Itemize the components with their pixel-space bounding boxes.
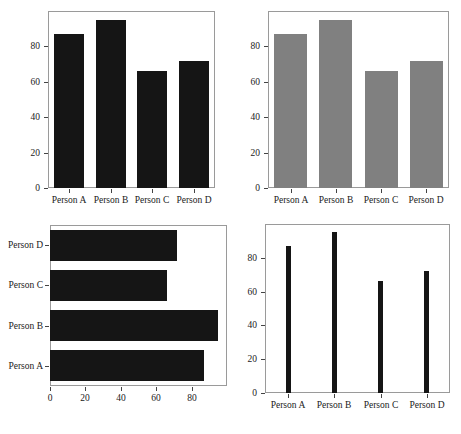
x-category-label: Person D bbox=[387, 400, 461, 410]
chart-panel-bottom-right: 020406080Person APerson BPerson CPerson … bbox=[0, 0, 461, 434]
y-tick-mark bbox=[261, 359, 265, 360]
y-tick-mark bbox=[261, 393, 265, 394]
x-tick-mark bbox=[334, 394, 335, 398]
bar-person-a bbox=[286, 246, 291, 393]
plot-frame bbox=[265, 224, 450, 393]
bar-person-d bbox=[424, 271, 429, 393]
x-tick-mark bbox=[427, 394, 428, 398]
y-tick-label: 80 bbox=[231, 253, 257, 263]
bar-person-c bbox=[378, 281, 383, 393]
y-tick-mark bbox=[261, 292, 265, 293]
x-tick-mark bbox=[381, 394, 382, 398]
y-tick-label: 60 bbox=[231, 287, 257, 297]
y-tick-mark bbox=[261, 258, 265, 259]
y-tick-label: 20 bbox=[231, 354, 257, 364]
y-tick-mark bbox=[261, 325, 265, 326]
y-tick-label: 0 bbox=[231, 388, 257, 398]
figure-canvas: 020406080Person APerson BPerson CPerson … bbox=[0, 0, 461, 434]
bar-person-b bbox=[332, 232, 337, 393]
y-tick-label: 40 bbox=[231, 320, 257, 330]
x-tick-mark bbox=[288, 394, 289, 398]
